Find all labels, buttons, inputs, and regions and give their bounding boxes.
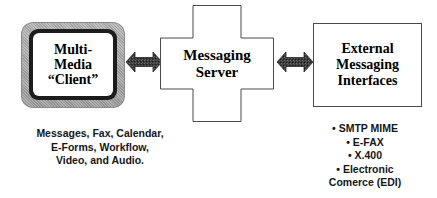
external-list-item-x400: • X.400 — [300, 149, 430, 163]
client-caption-line-3: Video, and Audio. — [20, 154, 180, 168]
client-caption-line-1: Messages, Fax, Calendar, — [20, 127, 180, 141]
server-label-line-2: Server — [196, 64, 238, 81]
monitor-bezel-inner-ring: Multi- Media “Client” — [29, 29, 117, 100]
client-caption-line-2: E-Forms, Workflow, — [20, 141, 180, 155]
node-external-messaging-interfaces: External Messaging Interfaces — [313, 23, 422, 107]
client-label-line-2: Media — [54, 57, 92, 72]
external-label-line-1: External — [341, 41, 393, 57]
node-messaging-server: Messaging Server — [160, 5, 274, 122]
client-label-line-1: Multi- — [54, 42, 92, 57]
client-capabilities-caption: Messages, Fax, Calendar, E-Forms, Workfl… — [20, 127, 180, 168]
server-label-line-1: Messaging — [183, 47, 251, 64]
connector-client-server-arrow — [126, 51, 162, 73]
server-label: Messaging Server — [160, 5, 274, 122]
external-label-line-3: Interfaces — [338, 73, 398, 89]
node-multimedia-client: Multi- Media “Client” — [21, 22, 125, 108]
external-list-item-comerce-edi: Comerce (EDI) — [300, 176, 430, 190]
external-label-line-2: Messaging — [336, 57, 399, 73]
external-list-item-smtp-mime: • SMTP MIME — [300, 122, 430, 136]
external-list-item-efax: • E-FAX — [300, 136, 430, 150]
external-interfaces-list: • SMTP MIME • E-FAX • X.400 • Electronic… — [300, 122, 430, 190]
connector-server-external-arrow — [277, 51, 313, 73]
client-label-line-3: “Client” — [48, 72, 99, 87]
monitor-screen: Multi- Media “Client” — [33, 33, 113, 96]
messaging-architecture-diagram: Multi- Media “Client” Messaging — [0, 0, 437, 198]
external-list-item-electronic: • Electronic — [300, 163, 430, 177]
